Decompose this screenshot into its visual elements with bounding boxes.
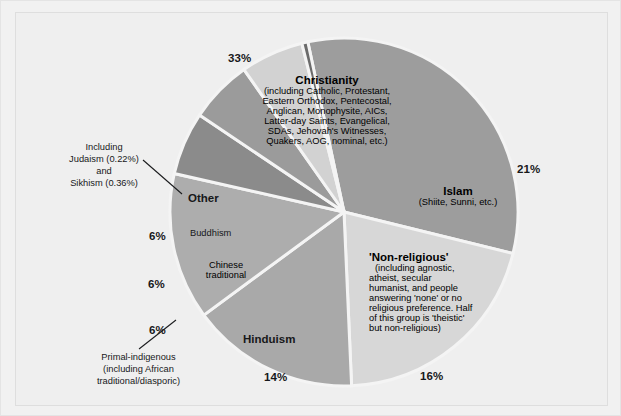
nonreligious-label-group: 'Non-religious' (including agnostic, ath…	[369, 251, 519, 333]
chinese-traditional-percent-label: 6%	[148, 277, 165, 291]
christianity-detail-line-5: SDAs, Jehovah's Witnesses,	[212, 126, 442, 136]
christianity-detail-line-1: (including Catholic, Protestant,	[212, 86, 442, 96]
primal-indigenous-label-group: Primal-indigenous (including African tra…	[46, 351, 231, 387]
pie-chart-plot: 33% Christianity (including Catholic, Pr…	[15, 12, 608, 406]
islam-label-group: Islam (Shiite, Sunni, etc.)	[398, 185, 518, 207]
chinese-traditional-title-line-1: Chinese	[183, 260, 269, 270]
buddhism-title: Buddhism	[190, 228, 231, 239]
christianity-detail-line-4: Latter-day Saints, Evangelical,	[212, 116, 442, 126]
nonreligious-detail-line-5: religious preference. Half	[369, 303, 519, 313]
primal-indigenous-detail-line-1: (including African	[46, 363, 231, 375]
chinese-traditional-title-line-2: traditional	[183, 270, 269, 280]
chart-frame: 33% Christianity (including Catholic, Pr…	[0, 0, 621, 416]
nonreligious-percent-label: 16%	[420, 369, 443, 383]
christianity-detail-line-2: Eastern Orthodox, Pentecostal,	[212, 96, 442, 106]
nonreligious-detail-line-4: answering 'none' or no	[369, 293, 519, 303]
christianity-detail-line-6: Quakers, AOG, nominal, etc.)	[212, 136, 442, 146]
buddhism-percent-label: 6%	[149, 229, 166, 243]
nonreligious-detail-line-1: (including agnostic,	[369, 263, 519, 273]
christianity-label-group: Christianity (including Catholic, Protes…	[212, 74, 442, 146]
other-callout-line-4: Sikhism (0.36%)	[44, 177, 164, 189]
other-callout-line-1: Including	[44, 141, 164, 153]
islam-title: Islam	[398, 185, 518, 197]
nonreligious-detail-line-7: but non-religious)	[369, 323, 519, 333]
primal-indigenous-title: Primal-indigenous	[46, 351, 231, 363]
chinese-traditional-label-group: Chinese traditional	[183, 260, 269, 280]
nonreligious-detail-line-2: atheist, secular	[369, 273, 519, 283]
pie-svg	[16, 13, 608, 406]
hinduism-percent-label: 14%	[264, 370, 287, 384]
other-callout-line-2: Judaism (0.22%)	[44, 153, 164, 165]
other-callout-group: Including Judaism (0.22%) and Sikhism (0…	[44, 141, 164, 189]
christianity-percent-label: 33%	[228, 51, 251, 65]
primal-indigenous-percent-label: 6%	[149, 323, 166, 337]
islam-detail-line-1: (Shiite, Sunni, etc.)	[398, 197, 518, 207]
islam-percent-label: 21%	[517, 162, 540, 176]
hinduism-title: Hinduism	[243, 332, 295, 346]
nonreligious-title: 'Non-religious'	[369, 251, 519, 263]
primal-indigenous-detail-line-2: traditional/diasporic)	[46, 375, 231, 387]
christianity-title: Christianity	[212, 74, 442, 86]
other-title: Other	[188, 191, 219, 205]
other-callout-line-3: and	[44, 165, 164, 177]
christianity-detail-line-3: Anglican, Monophysite, AICs,	[212, 106, 442, 116]
nonreligious-detail-line-6: of this group is 'theistic'	[369, 313, 519, 323]
nonreligious-detail-line-3: humanist, and people	[369, 283, 519, 293]
